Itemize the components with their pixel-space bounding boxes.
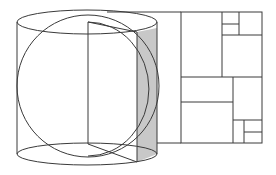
figure-canvas	[0, 0, 276, 175]
plane-bottom-edge	[88, 144, 137, 162]
shaded-strip	[137, 28, 157, 162]
cylinder-top-ellipse	[17, 10, 157, 34]
geometry-figure: Line drawing of a cylinder with an inscr…	[0, 0, 276, 175]
